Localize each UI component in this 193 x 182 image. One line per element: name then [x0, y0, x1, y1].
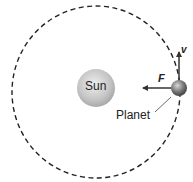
force-label: F: [158, 72, 165, 84]
velocity-label: v: [181, 44, 187, 55]
planet-label: Planet: [116, 108, 150, 122]
planet-leader-line: [155, 97, 171, 112]
planet-body: [171, 80, 187, 96]
sun-label: Sun: [85, 79, 106, 93]
